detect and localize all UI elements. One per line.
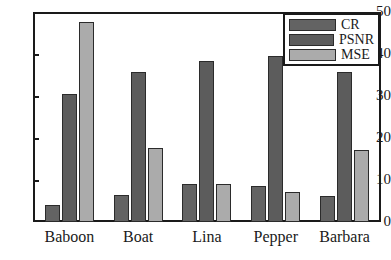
bar-group	[35, 14, 104, 222]
bar-psnr-lina	[199, 61, 214, 222]
bar-chart: 50403020100 BaboonBoatLinaPepperBarbara …	[0, 0, 391, 260]
bar-cr-baboon	[45, 205, 60, 222]
bar-cr-pepper	[251, 186, 266, 222]
bar-psnr-baboon	[62, 94, 77, 222]
bar-mse-boat	[148, 148, 163, 222]
bar-mse-barbara	[354, 150, 369, 222]
bar-cr-boat	[114, 195, 129, 222]
legend: CRPSNRMSE	[283, 13, 380, 66]
legend-item-psnr[interactable]: PSNR	[289, 33, 374, 46]
bar-group	[104, 14, 173, 222]
x-tick-label: Baboon	[35, 226, 104, 252]
bar-group	[173, 14, 242, 222]
legend-swatch-psnr	[289, 34, 334, 46]
x-axis-labels: BaboonBoatLinaPepperBarbara	[35, 226, 379, 252]
bar-mse-baboon	[79, 22, 94, 222]
bar-psnr-barbara	[337, 72, 352, 222]
legend-label: MSE	[341, 48, 370, 61]
x-tick-label: Boat	[104, 226, 173, 252]
legend-swatch-cr	[289, 19, 336, 31]
legend-item-cr[interactable]: CR	[289, 18, 374, 31]
x-tick-label: Barbara	[310, 226, 379, 252]
x-tick-label: Pepper	[241, 226, 310, 252]
bar-mse-pepper	[285, 192, 300, 222]
bar-psnr-boat	[131, 72, 146, 222]
legend-label: PSNR	[339, 33, 374, 46]
bar-mse-lina	[216, 184, 231, 222]
legend-label: CR	[341, 18, 360, 31]
bar-cr-barbara	[320, 196, 335, 222]
bar-cr-lina	[182, 184, 197, 222]
bar-psnr-pepper	[268, 56, 283, 222]
legend-swatch-mse	[289, 49, 336, 61]
legend-item-mse[interactable]: MSE	[289, 48, 374, 61]
x-tick-label: Lina	[173, 226, 242, 252]
